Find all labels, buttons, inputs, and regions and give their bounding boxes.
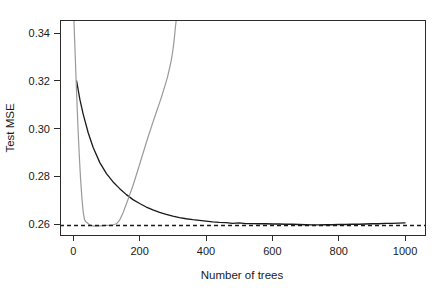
x-tick-label: 1000 <box>393 245 417 257</box>
x-tick-label: 0 <box>70 245 76 257</box>
y-tick-label: 0.32 <box>29 75 50 87</box>
y-tick-label: 0.26 <box>29 218 50 230</box>
y-tick-label: 0.28 <box>29 170 50 182</box>
x-tick-label: 400 <box>197 245 215 257</box>
x-tick-label: 600 <box>263 245 281 257</box>
x-axis-label: Number of trees <box>201 269 284 281</box>
figure-container: 02004006008001000 0.260.280.300.320.34 N… <box>0 0 444 288</box>
y-axis-label: Test MSE <box>4 103 16 153</box>
y-tick-label: 0.34 <box>29 27 50 39</box>
test-mse-line-chart: 02004006008001000 0.260.280.300.320.34 N… <box>0 0 444 288</box>
x-tick-label: 800 <box>330 245 348 257</box>
chart-background <box>0 0 444 288</box>
x-tick-label: 200 <box>130 245 148 257</box>
y-tick-label: 0.30 <box>29 123 50 135</box>
